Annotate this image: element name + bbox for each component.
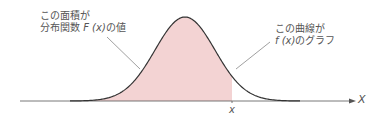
area-annotation: この面積が 分布関数 F (x)の値 — [40, 10, 126, 34]
area-annotation-line2: 分布関数 F (x)の値 — [40, 22, 126, 34]
area-annotation-line1: この面積が — [40, 10, 126, 22]
area-leader-line — [107, 37, 140, 69]
curve-leader-line — [236, 42, 270, 69]
curve-annotation-line1: この曲線が — [275, 23, 335, 35]
axis-name-label: X — [358, 94, 366, 106]
pdf-symbol: f (x) — [275, 35, 295, 46]
x-axis-arrow — [349, 99, 356, 104]
cdf-symbol: F (x) — [83, 22, 106, 33]
x-value-label: x — [229, 104, 235, 116]
curve-annotation: この曲線が f (x)のグラフ — [275, 23, 335, 47]
curve-annotation-line2: f (x)のグラフ — [275, 35, 335, 47]
